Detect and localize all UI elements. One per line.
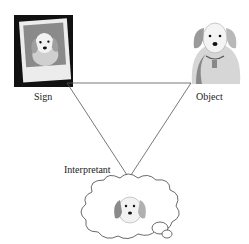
interpretant-label: Interpretant	[64, 164, 111, 175]
diagram-canvas	[0, 0, 249, 244]
sign-label: Sign	[34, 91, 52, 102]
edge-object-interpretant	[129, 83, 191, 178]
object-image	[192, 23, 240, 84]
object-label: Object	[196, 91, 223, 102]
sign-image	[14, 15, 73, 87]
